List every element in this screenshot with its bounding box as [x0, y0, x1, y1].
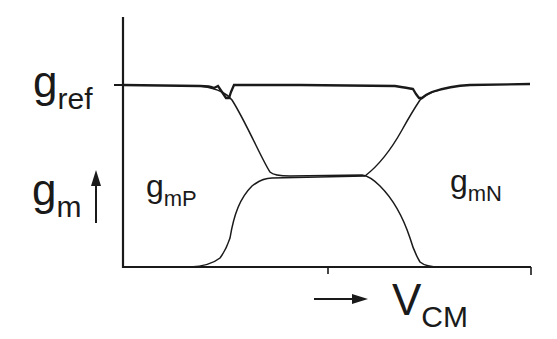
gref-main: g: [33, 57, 57, 106]
vcm-main: V: [392, 275, 421, 324]
gmP-label: gmP: [146, 170, 197, 202]
y-axis-label: gm: [32, 168, 81, 212]
curve-gtotal: [123, 84, 530, 98]
gm-sub: m: [56, 190, 81, 223]
gm-main: g: [32, 165, 56, 214]
curve-gmN: [190, 90, 440, 267]
gmP-sub: mP: [164, 186, 197, 211]
x-axis-label: VCM: [392, 278, 468, 322]
gmN-main: g: [450, 163, 468, 199]
gmN-sub: mN: [468, 181, 502, 206]
gref-label: gref: [33, 60, 93, 104]
gmP-main: g: [146, 168, 164, 204]
gmN-label: gmN: [450, 165, 502, 197]
gref-sub: ref: [57, 82, 92, 115]
vcm-sub: CM: [421, 300, 468, 333]
